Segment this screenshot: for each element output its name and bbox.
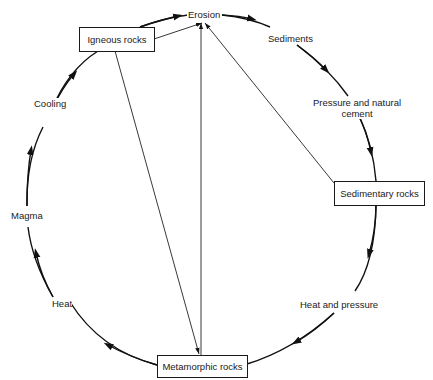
label-pressure-natural-cement: Pressure and natural cement bbox=[309, 97, 405, 119]
node-sedimentary-rocks: Sedimentary rocks bbox=[334, 181, 425, 206]
arc-sedimentary-to-heatpressure bbox=[355, 205, 376, 291]
arc-sediments-to-pressure bbox=[297, 45, 348, 96]
arc-heatpressure-to-metamorphic bbox=[247, 313, 334, 364]
node-metamorphic-rocks: Metamorphic rocks bbox=[157, 355, 248, 378]
arc-erosion-to-sediments bbox=[222, 15, 270, 27]
label-heat: Heat bbox=[52, 298, 72, 309]
label-pressure-line1: Pressure and natural bbox=[309, 97, 405, 108]
cycle-arc bbox=[27, 15, 376, 365]
arc-heat-to-magma bbox=[28, 227, 53, 297]
label-erosion: Erosion bbox=[187, 9, 221, 20]
label-heat-and-pressure: Heat and pressure bbox=[300, 299, 378, 310]
node-igneous-rocks: Igneous rocks bbox=[79, 27, 155, 52]
label-sediments: Sediments bbox=[268, 33, 313, 44]
label-cooling: Cooling bbox=[34, 98, 66, 109]
arc-metamorphic-to-heat bbox=[70, 302, 157, 365]
arrow-igneous-to-erosion bbox=[154, 23, 202, 39]
arc-pressure-to-sedimentary bbox=[359, 116, 376, 181]
arrow-igneous-to-metamorphic bbox=[115, 51, 199, 354]
label-magma: Magma bbox=[11, 210, 43, 221]
label-pressure-line2: cement bbox=[309, 108, 405, 119]
